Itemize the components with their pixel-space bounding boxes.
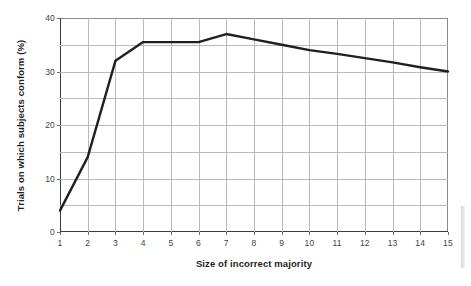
x-axis-tick-label: 12 — [360, 238, 370, 248]
x-axis-tick-mark — [337, 232, 338, 235]
x-axis-tick-mark — [420, 232, 421, 235]
y-axis-title: Trials on which subjects conform (%) — [14, 18, 28, 232]
x-axis-tick-mark — [254, 232, 255, 235]
x-axis-title: Size of incorrect majority — [60, 258, 448, 269]
x-axis-tick-label: 15 — [443, 238, 453, 248]
x-axis-tick-mark — [226, 232, 227, 235]
y-axis-tick-label: 10 — [45, 174, 55, 184]
x-axis-tick-mark — [309, 232, 310, 235]
x-axis-tick-label: 3 — [113, 238, 118, 248]
x-axis-tick-mark — [393, 232, 394, 235]
x-axis-tick-mark — [115, 232, 116, 235]
y-axis-tick-label: 20 — [45, 120, 55, 130]
series-polyline — [60, 34, 448, 211]
plot-area: 010203040 123456789101112131415 — [60, 18, 448, 232]
chart-figure: Trials on which subjects conform (%) 010… — [0, 0, 471, 286]
x-axis-tick-mark — [199, 232, 200, 235]
y-axis-tick-label: 30 — [45, 67, 55, 77]
x-axis-tick-label: 5 — [168, 238, 173, 248]
x-axis-tick-mark — [143, 232, 144, 235]
x-axis-tick-label: 9 — [279, 238, 284, 248]
x-axis-tick-mark — [88, 232, 89, 235]
x-axis-tick-label: 14 — [415, 238, 425, 248]
x-axis-tick-label: 10 — [304, 238, 314, 248]
y-axis-tick-label: 0 — [50, 227, 55, 237]
y-axis-title-text: Trials on which subjects conform (%) — [16, 39, 27, 210]
x-axis-tick-mark — [171, 232, 172, 235]
x-axis-tick-label: 2 — [85, 238, 90, 248]
x-axis-tick-label: 6 — [196, 238, 201, 248]
x-axis-tick-mark — [60, 232, 61, 235]
x-axis-tick-mark — [282, 232, 283, 235]
x-axis-tick-label: 7 — [224, 238, 229, 248]
x-axis-tick-mark — [448, 232, 449, 235]
scan-edge-artifact — [461, 206, 465, 268]
conformity-line-series — [60, 18, 448, 232]
x-axis-tick-label: 4 — [141, 238, 146, 248]
x-axis-tick-label: 13 — [388, 238, 398, 248]
x-axis-tick-label: 11 — [333, 238, 342, 248]
y-axis-tick-label: 40 — [45, 13, 55, 23]
x-axis-tick-label: 8 — [252, 238, 257, 248]
x-axis-tick-label: 1 — [58, 238, 63, 248]
x-axis-tick-mark — [365, 232, 366, 235]
